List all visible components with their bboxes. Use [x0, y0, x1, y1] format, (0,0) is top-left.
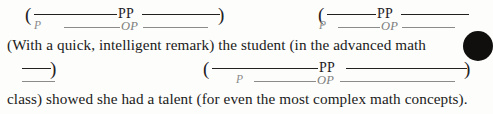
pp-close-paren-row2-c: ) [464, 59, 470, 78]
pp-rule-right-row1-b [401, 14, 469, 15]
p-marker-row2-c: P [236, 74, 243, 86]
pp-rule-right-row2-c [346, 68, 467, 69]
pp-rule-right-row1-a [142, 14, 220, 15]
pp-rule-left-row1-b [327, 14, 377, 15]
pp-close-paren-row2-a: ) [50, 59, 56, 78]
p-marker-row1-a: P [34, 20, 41, 32]
sentence-line-2: class) showed she had a talent (for even… [7, 90, 468, 108]
op-rule-continuation-row2 [22, 81, 55, 82]
op-rule-right-row1-a [143, 27, 208, 28]
pp-rule-left-row1-a [34, 14, 118, 15]
pp-rule-continuation-row2 [22, 68, 51, 69]
op-label-row2-c: OP [316, 74, 335, 87]
op-rule-right-row1-b [402, 27, 455, 28]
op-rule-right-row2-c [340, 81, 455, 82]
pp-open-paren-row2-c: ( [203, 59, 209, 78]
pp-rule-left-row2-c [212, 68, 319, 69]
sentence-line-1: (With a quick, intelligent remark) the s… [7, 36, 426, 54]
op-label-row1-b: OP [380, 20, 399, 33]
op-label-row1-a: OP [120, 20, 139, 33]
pp-open-paren-row1-a: ( [25, 5, 31, 24]
p-marker-row1-b: P [319, 20, 326, 32]
op-rule-left-row1-b [338, 27, 382, 28]
op-rule-left-row2-c [254, 81, 317, 82]
op-rule-left-row1-a [64, 27, 122, 28]
pp-close-paren-row1-a: ) [218, 5, 224, 24]
scan-artifact-blob [463, 31, 493, 61]
